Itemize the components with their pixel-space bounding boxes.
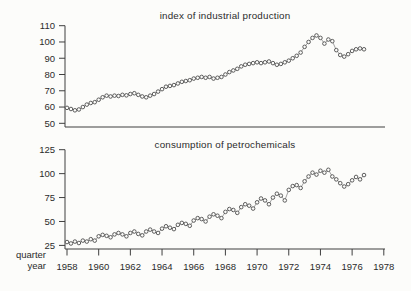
data-point-marker — [271, 196, 275, 200]
y-tick-label: 50 — [44, 216, 55, 227]
data-point-marker — [338, 181, 342, 185]
data-point-marker — [354, 47, 358, 51]
data-point-marker — [239, 205, 243, 209]
data-point-marker — [140, 234, 144, 238]
data-point-marker — [251, 207, 255, 211]
y-tick-label: 90 — [44, 53, 55, 64]
data-point-marker — [291, 184, 295, 188]
data-point-marker — [136, 232, 140, 236]
data-point-marker — [291, 56, 295, 60]
data-point-marker — [235, 211, 239, 215]
y-tick-label: 60 — [44, 101, 55, 112]
data-point-marker — [93, 239, 97, 243]
data-point-marker — [327, 168, 331, 172]
data-point-marker — [184, 79, 188, 83]
x-tick-label: 1978 — [373, 261, 394, 272]
data-point-marker — [334, 178, 338, 182]
data-point-marker — [105, 94, 109, 98]
data-point-marker — [65, 240, 69, 244]
data-point-marker — [311, 171, 315, 175]
data-point-marker — [77, 241, 81, 245]
data-point-marker — [255, 61, 259, 65]
data-point-marker — [323, 42, 327, 46]
data-point-marker — [204, 76, 208, 80]
data-point-marker — [259, 197, 263, 201]
data-point-marker — [196, 76, 200, 80]
data-point-marker — [97, 235, 101, 239]
x-tick-label: 1964 — [151, 261, 172, 272]
y-tick-label: 80 — [44, 69, 55, 80]
data-point-marker — [121, 233, 125, 237]
data-point-marker — [176, 223, 180, 227]
data-point-marker — [267, 60, 271, 64]
data-point-marker — [188, 224, 192, 228]
y-tick-label: 50 — [44, 118, 55, 129]
data-point-marker — [133, 230, 137, 234]
data-point-marker — [323, 171, 327, 175]
y-tick-label: 70 — [44, 85, 55, 96]
data-point-marker — [113, 94, 117, 98]
data-point-marker — [129, 92, 133, 96]
data-point-marker — [346, 182, 350, 186]
data-point-marker — [354, 175, 358, 179]
data-point-marker — [275, 63, 279, 67]
data-point-marker — [125, 94, 129, 98]
data-point-marker — [255, 201, 259, 205]
series-line — [67, 170, 364, 244]
data-point-marker — [243, 202, 247, 206]
data-point-marker — [228, 207, 232, 211]
series-line — [67, 35, 364, 110]
data-point-marker — [295, 183, 299, 187]
x-tick-label: 1974 — [310, 261, 331, 272]
data-point-marker — [168, 226, 172, 230]
data-point-marker — [228, 70, 232, 74]
data-point-marker — [192, 77, 196, 81]
data-point-marker — [144, 230, 148, 234]
data-point-marker — [180, 80, 184, 84]
data-point-marker — [196, 216, 200, 220]
data-point-marker — [216, 76, 220, 80]
data-point-marker — [164, 224, 168, 228]
figure-canvas: index of industrial production consumpti… — [0, 0, 411, 291]
data-point-marker — [148, 94, 152, 98]
x-tick-label: 1966 — [183, 261, 204, 272]
data-point-marker — [342, 55, 346, 59]
x-tick-label: 1972 — [278, 261, 299, 272]
data-point-marker — [136, 93, 140, 97]
data-point-marker — [168, 84, 172, 88]
data-point-marker — [105, 234, 109, 238]
data-point-marker — [97, 98, 101, 102]
data-point-marker — [362, 173, 366, 177]
data-point-marker — [220, 75, 224, 79]
data-point-marker — [315, 34, 319, 38]
x-tick-label: 1960 — [88, 261, 109, 272]
data-point-marker — [101, 233, 105, 237]
data-point-marker — [121, 93, 125, 97]
dual-time-series-plot: 1101009080706050125100755025195819601962… — [0, 0, 411, 291]
data-point-marker — [109, 235, 113, 239]
data-point-marker — [279, 194, 283, 198]
data-point-marker — [77, 108, 81, 112]
data-point-marker — [224, 210, 228, 214]
data-point-marker — [319, 169, 323, 173]
data-point-marker — [243, 63, 247, 67]
data-point-marker — [172, 227, 176, 231]
y-tick-label: 125 — [39, 144, 55, 155]
data-point-marker — [192, 219, 196, 223]
data-point-marker — [362, 47, 366, 51]
data-point-marker — [89, 237, 93, 241]
data-point-marker — [350, 179, 354, 183]
data-point-marker — [113, 233, 117, 237]
data-point-marker — [81, 239, 85, 243]
data-point-marker — [180, 221, 184, 225]
data-point-marker — [232, 208, 236, 212]
data-point-marker — [311, 36, 315, 40]
data-point-marker — [148, 228, 152, 232]
data-point-marker — [117, 231, 121, 235]
data-point-marker — [283, 61, 287, 65]
data-point-marker — [200, 217, 204, 221]
data-point-marker — [283, 199, 287, 203]
data-point-marker — [279, 62, 283, 66]
data-point-marker — [275, 192, 279, 196]
data-point-marker — [208, 215, 212, 219]
